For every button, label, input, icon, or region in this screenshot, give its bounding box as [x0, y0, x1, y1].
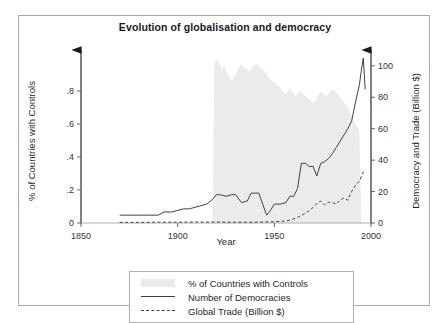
dashed-line-icon — [139, 305, 179, 317]
svg-text:60: 60 — [378, 124, 388, 134]
legend-label-democracies: Number of Democracies — [188, 292, 290, 303]
svg-text:.4: .4 — [66, 152, 74, 162]
legend-label-global-trade: Global Trade (Billion $) — [188, 306, 285, 317]
svg-text:100: 100 — [378, 61, 393, 71]
svg-text:.2: .2 — [66, 185, 74, 195]
legend-item-controls[interactable]: % of Countries with Controls — [130, 276, 353, 290]
left-axis-ticks: 0.2.4.6.8 — [66, 86, 81, 228]
left-axis-title: % of Countries with Controls — [26, 81, 37, 201]
right-axis-title: Democracy and Trade (Billion $) — [410, 73, 421, 209]
svg-text:.8: .8 — [66, 86, 74, 96]
svg-text:80: 80 — [378, 92, 388, 102]
svg-text:1900: 1900 — [168, 231, 188, 241]
legend-item-democracies[interactable]: Number of Democracies — [130, 290, 353, 304]
svg-text:1950: 1950 — [264, 231, 284, 241]
svg-text:40: 40 — [378, 155, 388, 165]
area-swatch-icon — [139, 277, 179, 289]
legend-label-controls: % of Countries with Controls — [188, 278, 308, 289]
svg-text:20: 20 — [378, 187, 388, 197]
svg-text:0: 0 — [378, 218, 383, 228]
x-axis-title: Year — [216, 236, 235, 247]
svg-text:1850: 1850 — [71, 231, 91, 241]
chart-plot-area: 0.2.4.6.8 020406080100 1850190019502000 … — [19, 16, 431, 307]
chart-legend: % of Countries with Controls Number of D… — [129, 271, 354, 323]
svg-text:.6: .6 — [66, 119, 74, 129]
series-area-controls — [212, 60, 361, 223]
figure-frame: Evolution of globalisation and democracy… — [18, 15, 430, 306]
svg-text:2000: 2000 — [361, 231, 381, 241]
svg-text:0: 0 — [69, 218, 74, 228]
solid-line-icon — [139, 291, 179, 303]
right-axis-ticks: 020406080100 — [371, 61, 393, 228]
legend-item-global-trade[interactable]: Global Trade (Billion $) — [130, 304, 353, 318]
